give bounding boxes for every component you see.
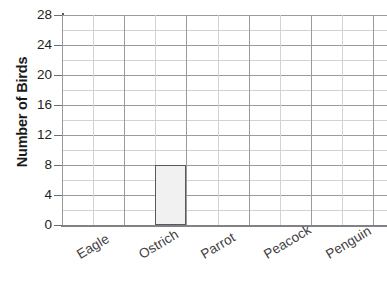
x-tick-label-penguin: Penguin [323,223,374,262]
gridline-horizontal-minor [62,120,387,121]
x-axis-tick-labels: EagleOstrichParrotPeacockPenguin [0,225,387,288]
bar-ostrich [155,165,186,225]
y-tick-mark [54,195,62,196]
gridline-horizontal-minor [62,60,387,61]
y-tick-mark [54,165,62,166]
gridline-horizontal [62,195,387,196]
gridline-horizontal [62,105,387,106]
gridline-horizontal-minor [62,150,387,151]
gridline-vertical [186,15,187,225]
gridline-vertical [311,15,312,225]
gridline-horizontal-minor [62,210,387,211]
y-tick-label: 16 [26,98,52,112]
x-tick-label-ostrich: Ostrich [136,227,181,262]
gridline-vertical [342,15,343,225]
bar-chart: Number of Birds 2824201612840 EagleOstri… [0,0,387,288]
y-tick-label: 20 [26,68,52,82]
y-tick-mark [54,105,62,106]
gridline-horizontal-minor [62,180,387,181]
x-tick-label-peacock: Peacock [261,222,314,262]
gridline-horizontal [62,45,387,46]
gridline-vertical [93,15,94,225]
y-tick-label: 12 [26,128,52,142]
plot-area [62,15,387,225]
gridline-horizontal-minor [62,90,387,91]
y-tick-label: 24 [26,38,52,52]
gridline-vertical [62,15,63,225]
gridline-vertical [218,15,219,225]
x-tick-label-eagle: Eagle [74,231,112,262]
y-tick-mark [54,225,62,226]
gridline-horizontal [62,15,387,16]
gridline-vertical [373,15,374,225]
y-tick-label: 4 [26,188,52,202]
x-tick-label-parrot: Parrot [198,230,238,262]
y-tick-mark [54,15,62,16]
gridline-horizontal-minor [62,30,387,31]
y-tick-mark [54,45,62,46]
gridline-vertical [280,15,281,225]
gridline-horizontal [62,165,387,166]
y-tick-mark [54,75,62,76]
y-tick-label: 28 [26,8,52,22]
gridline-vertical [124,15,125,225]
gridline-vertical [249,15,250,225]
y-tick-mark [54,135,62,136]
gridline-horizontal [62,75,387,76]
y-tick-label: 8 [26,158,52,172]
gridline-horizontal [62,135,387,136]
